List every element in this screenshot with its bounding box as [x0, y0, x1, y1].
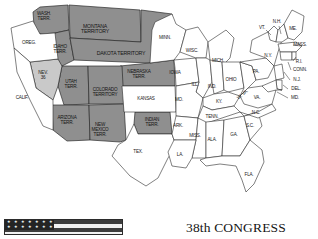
illinois-shape	[196, 58, 212, 98]
arizona-territory-shape	[52, 105, 90, 141]
colorado-territory-shape	[88, 66, 124, 104]
nebraska-territory-shape	[120, 60, 175, 86]
new-mexico-territory-shape	[89, 104, 126, 142]
legend-star: ★	[21, 225, 25, 229]
leader-conn	[288, 62, 291, 70]
washington-territory-shape	[33, 5, 69, 34]
map-geometry: .terr { fill:#8f8f8f; stroke:#2b2b2b; st…	[0, 0, 318, 239]
louisiana-shape	[168, 140, 196, 168]
leader-del	[283, 85, 288, 89]
legend-star: ★	[42, 225, 46, 229]
flag-legend: ★★★★★★★★★★★★★★	[4, 219, 123, 235]
legend-star: ★	[28, 225, 32, 229]
historical-us-map-figure: .terr { fill:#8f8f8f; stroke:#2b2b2b; st…	[0, 0, 318, 239]
congress-title: 38th CONGRESS	[186, 220, 286, 236]
montana-territory-shape	[69, 5, 141, 42]
legend-stripe-4	[5, 232, 123, 235]
indiana-shape	[210, 60, 224, 94]
utah-territory-shape	[58, 66, 89, 105]
rhode-island-shape	[292, 52, 296, 60]
new-jersey-shape	[274, 64, 284, 80]
massachusetts-shape	[278, 42, 302, 52]
arkansas-shape	[172, 116, 198, 140]
legend-star: ★	[14, 225, 18, 229]
leader-nj	[284, 72, 290, 80]
leader-md	[277, 92, 288, 98]
kansas-shape	[122, 86, 176, 112]
legend-star-canton: ★★★★★★★★★★★★★★	[5, 220, 54, 230]
legend-star: ★	[7, 225, 11, 229]
alabama-shape	[206, 120, 224, 158]
legend-star: ★	[49, 225, 53, 229]
maine-shape	[284, 10, 304, 40]
legend-star: ★	[35, 225, 39, 229]
indian-territory-shape	[134, 112, 172, 134]
connecticut-shape	[280, 52, 292, 60]
iowa-shape	[174, 58, 199, 86]
